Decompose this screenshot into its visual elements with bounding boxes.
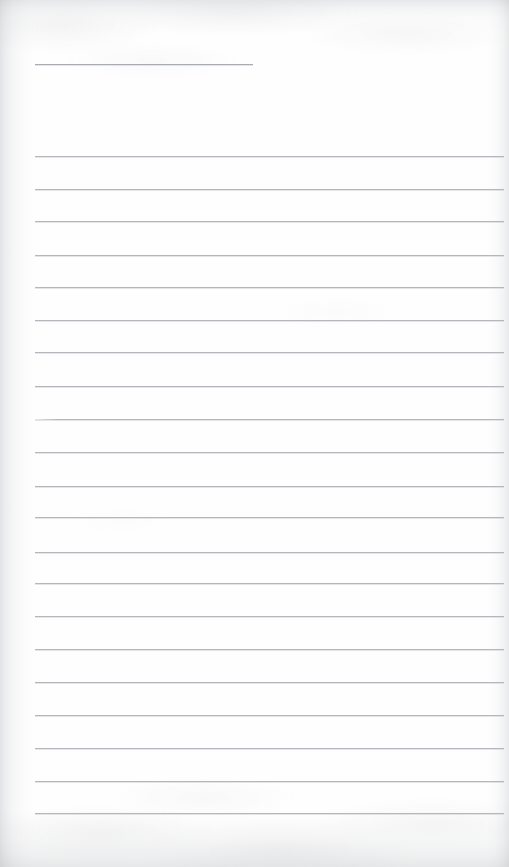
ruling-line-4: [35, 255, 504, 256]
ruling-line-9: [35, 419, 504, 420]
ruling-line-20: [35, 781, 504, 782]
ruling-line-17: [35, 682, 504, 683]
ruling-line-19: [35, 748, 504, 749]
ruling-line-15: [35, 616, 504, 617]
header-rule: [35, 64, 253, 65]
ruling-line-2: [35, 189, 504, 190]
ruling-line-8: [35, 386, 504, 387]
ruling-line-11: [35, 486, 504, 487]
ruling-line-5: [35, 287, 504, 288]
ruling-line-13: [35, 552, 504, 553]
paper-background: [0, 0, 509, 867]
ruling-line-10: [35, 452, 504, 453]
ruling-line-7: [35, 352, 504, 353]
ruling-line-21: [35, 813, 504, 814]
ruling-line-6: [35, 320, 504, 321]
ruling-line-18: [35, 715, 504, 716]
ruling-line-16: [35, 649, 504, 650]
ruling-line-14: [35, 583, 504, 584]
ruling-line-1: [35, 156, 504, 157]
ruling-line-12: [35, 517, 504, 518]
scanned-page: [0, 0, 509, 867]
ruling-line-3: [35, 221, 504, 222]
